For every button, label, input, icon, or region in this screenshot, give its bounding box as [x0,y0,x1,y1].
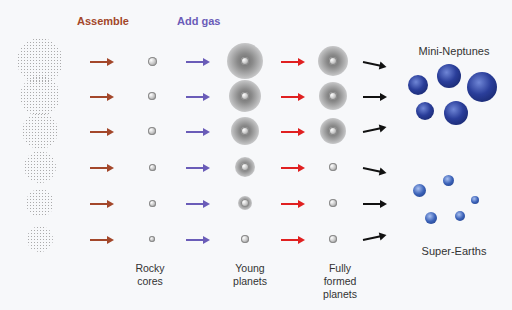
final-planet-core [329,199,337,207]
final-planet-core [329,235,337,243]
add-gas-header: Add gas [177,15,220,27]
evolve-arrow [281,131,299,133]
outcome-arrow [363,61,381,67]
super-earth-planet [455,211,465,221]
assemble-arrow [90,131,108,133]
dust-cloud [22,113,58,149]
dust-cloud [26,189,54,217]
rocky-core [149,164,156,171]
outcome-arrow [363,96,381,98]
evolve-arrow [281,203,299,205]
young-planet-core [241,127,249,135]
add-gas-arrow [186,167,204,169]
final-planet-core [329,92,337,100]
assemble-arrow [90,203,108,205]
assemble-arrow [90,61,108,63]
final-planet-core [329,57,337,65]
add-gas-arrow [186,203,204,205]
add-gas-arrow [186,61,204,63]
evolve-arrow [281,239,299,241]
super-earth-planet [471,196,479,204]
dust-cloud [20,76,60,116]
mini-neptune-planet [437,64,461,88]
young-planet-core [241,199,249,207]
assemble-arrow [90,167,108,169]
outcome-arrow [363,235,381,241]
final-planet-core [329,127,337,135]
dust-cloud [27,226,53,252]
outcome-arrow [363,203,381,205]
young-planet-core [241,57,249,65]
young-planets-label: Young planets [228,262,272,288]
evolve-arrow [281,96,299,98]
rocky-core [149,200,156,207]
final-planet-core [329,163,337,171]
add-gas-arrow [186,131,204,133]
young-planet-core [241,163,249,171]
fully-formed-planets-label: Fully formed planets [318,262,362,301]
super-earth-planet [413,184,426,197]
outcome-arrow [363,127,381,133]
add-gas-arrow [186,96,204,98]
assemble-header: Assemble [77,15,129,27]
dust-cloud [24,151,56,183]
mini-neptune-planet [467,72,497,102]
assemble-arrow [90,96,108,98]
super-earth-planet [443,175,454,186]
rocky-core [148,127,156,135]
rocky-core [149,236,155,242]
assemble-arrow [90,239,108,241]
rocky-core [148,92,156,100]
mini-neptunes-label: Mini-Neptunes [414,45,494,58]
evolve-arrow [281,61,299,63]
super-earth-planet [425,212,437,224]
mini-neptune-planet [408,75,428,95]
add-gas-arrow [186,239,204,241]
mini-neptune-planet [444,101,468,125]
young-planet-core [241,92,249,100]
evolve-arrow [281,167,299,169]
young-planet-core [241,235,249,243]
outcome-arrow [363,167,381,173]
super-earths-label: Super-Earths [414,245,494,258]
mini-neptune-planet [416,102,434,120]
rocky-cores-label: Rocky cores [130,262,170,288]
rocky-core [148,57,157,66]
